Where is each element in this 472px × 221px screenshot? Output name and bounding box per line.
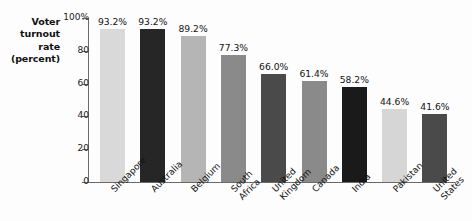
bar-south-africa bbox=[221, 55, 246, 182]
y-tick-label-wrap-20: 20 bbox=[48, 149, 89, 150]
bar-united-states bbox=[422, 114, 447, 182]
bar-india bbox=[342, 87, 367, 182]
y-tick-label-wrap-80: 80 bbox=[48, 51, 89, 52]
bar-value-label-0: 93.2% bbox=[98, 17, 128, 27]
y-tick-label-wrap-60: 60 bbox=[48, 84, 89, 85]
bar-value-label-3: 77.3% bbox=[218, 43, 248, 53]
y-tick-label-60: 60 bbox=[59, 79, 89, 88]
bar-value-label-6: 58.2% bbox=[339, 75, 369, 85]
bar-belgium bbox=[181, 36, 206, 182]
y-tick-label-wrap-100: 100% bbox=[48, 18, 89, 19]
bar-united-kingdom bbox=[261, 74, 286, 182]
bar-value-label-5: 61.4% bbox=[299, 69, 329, 79]
y-axis-title-line-1: turnout bbox=[2, 28, 60, 40]
y-axis-title: Voterturnoutrate(percent) bbox=[2, 16, 60, 66]
y-tick-label-20: 20 bbox=[59, 144, 89, 153]
voter-turnout-bar-chart: Voterturnoutrate(percent) 020406080100% … bbox=[0, 0, 472, 221]
y-tick-label-0: 0 bbox=[59, 177, 89, 186]
y-axis-title-line-3: (percent) bbox=[2, 53, 60, 65]
bar-value-label-2: 89.2% bbox=[178, 24, 208, 34]
y-axis-line bbox=[88, 18, 89, 183]
y-tick-label-40: 40 bbox=[59, 111, 89, 120]
bar-value-label-1: 93.2% bbox=[138, 17, 168, 27]
y-tick-label-wrap-40: 40 bbox=[48, 116, 89, 117]
bar-singapore bbox=[100, 29, 125, 182]
bar-value-label-7: 44.6% bbox=[380, 97, 410, 107]
bar-value-label-8: 41.6% bbox=[420, 102, 450, 112]
bar-value-label-4: 66.0% bbox=[259, 62, 289, 72]
y-tick-label-wrap-0: 0 bbox=[48, 182, 89, 183]
y-tick-label-100: 100% bbox=[59, 13, 89, 22]
bar-pakistan bbox=[382, 109, 407, 182]
y-tick-label-80: 80 bbox=[59, 46, 89, 55]
